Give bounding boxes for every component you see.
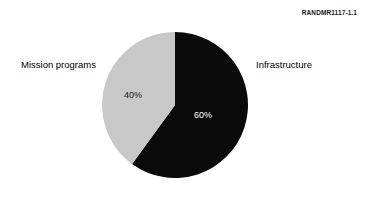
pie-label-infrastructure: Infrastructure: [256, 59, 312, 70]
figure-id-label: RANDMR1117-1.1: [302, 9, 357, 16]
pie-label-mission-programs: Mission programs: [21, 59, 96, 70]
pie-value-infrastructure: 60%: [194, 110, 212, 120]
pie-value-mission-programs: 40%: [124, 90, 142, 100]
pie-chart-figure: RANDMR1117-1.1 Mission programs Infrastr…: [0, 0, 365, 207]
pie-svg: [102, 32, 248, 178]
pie-chart-graphic: [102, 32, 248, 178]
